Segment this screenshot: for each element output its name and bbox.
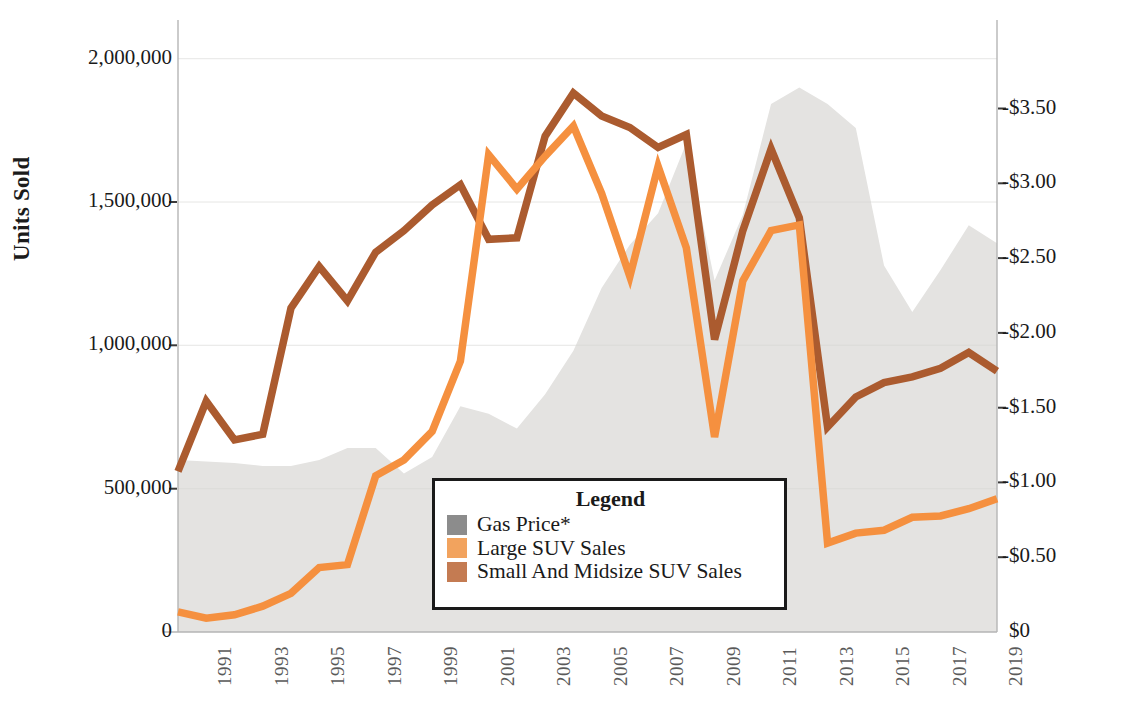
x-tick-label: 2007 [666, 646, 688, 686]
y-tick-left-label: 500,000 [104, 475, 172, 500]
y-tick-right-label: -$2.50 [1002, 244, 1056, 269]
y-tick-left-label: 1,500,000 [88, 188, 172, 213]
x-tick-label: 2009 [723, 646, 745, 686]
legend-label-small-midsize-suv: Small And Midsize SUV Sales [477, 561, 742, 583]
x-tick-label: 2017 [949, 646, 971, 686]
x-tick-label: 2013 [836, 646, 858, 686]
x-tick-label: 1991 [214, 646, 236, 686]
y-tick-left-label: 0 [162, 618, 173, 643]
legend-item-large-suv: Large SUV Sales [447, 538, 774, 560]
y-tick-right-label: $0 [1009, 618, 1030, 643]
x-tick-label: 1999 [440, 646, 462, 686]
legend-title: Legend [447, 486, 774, 512]
legend: Legend Gas Price* Large SUV Sales Small … [432, 478, 787, 610]
y-tick-right-label: -$0.50 [1002, 543, 1056, 568]
x-tick-label: 1995 [327, 646, 349, 686]
x-tick-label: 2005 [610, 646, 632, 686]
x-tick-label: 1993 [271, 646, 293, 686]
legend-swatch-small-midsize-suv [447, 562, 467, 582]
y-tick-right-label: -$1.50 [1002, 394, 1056, 419]
y-tick-right-label: -$3.00 [1002, 169, 1056, 194]
legend-swatch-gas-price [447, 515, 467, 535]
legend-item-gas-price: Gas Price* [447, 514, 774, 536]
x-tick-label: 1997 [384, 646, 406, 686]
y-tick-right-label: -$1.00 [1002, 468, 1056, 493]
y-tick-left-label: 2,000,000 [88, 45, 172, 70]
y-tick-right-label: -$2.00 [1002, 319, 1056, 344]
x-tick-label: 2003 [553, 646, 575, 686]
suv-sales-gas-price-chart: Units Sold 2,000,0001,500,0001,000,00050… [0, 0, 1132, 712]
y-tick-right-label: -$3.50 [1002, 95, 1056, 120]
legend-label-large-suv: Large SUV Sales [477, 538, 626, 560]
legend-swatch-large-suv [447, 538, 467, 558]
x-tick-label: 2019 [1005, 646, 1027, 686]
x-tick-label: 2011 [779, 647, 801, 686]
legend-label-gas-price: Gas Price* [477, 514, 571, 536]
x-tick-label: 2001 [497, 646, 519, 686]
legend-item-small-midsize-suv: Small And Midsize SUV Sales [447, 561, 774, 583]
x-tick-label: 2015 [892, 646, 914, 686]
y-tick-left-label: 1,000,000 [88, 331, 172, 356]
